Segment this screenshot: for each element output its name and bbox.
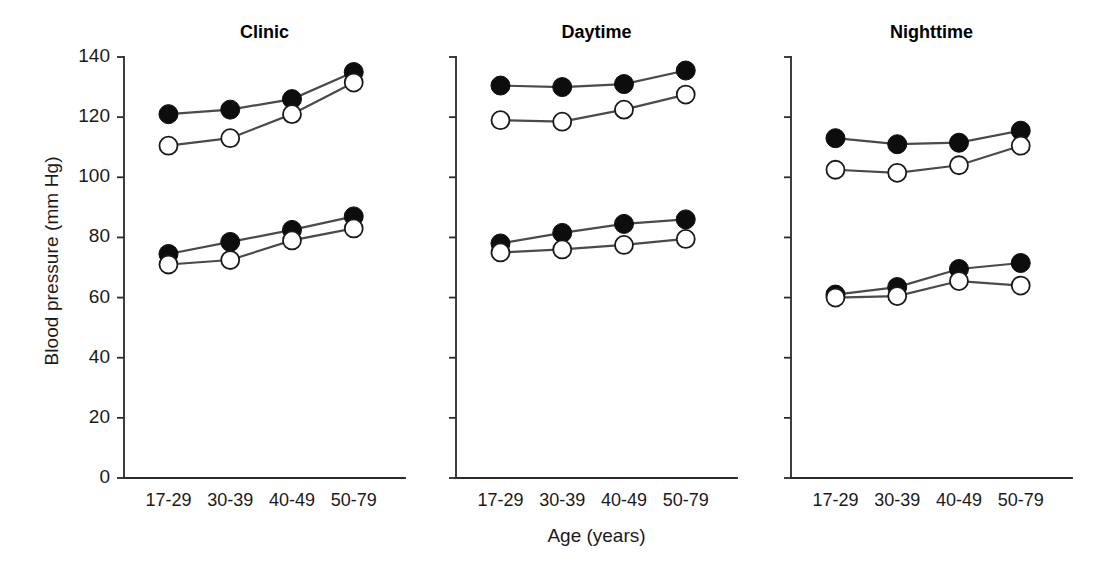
y-tick-label: 0 <box>62 466 110 488</box>
data-point-filled <box>949 133 968 152</box>
panel-title-daytime: Daytime <box>436 22 757 43</box>
panel-title-nighttime: Nighttime <box>771 22 1092 43</box>
y-tick-label: 120 <box>62 105 110 127</box>
series-line <box>500 239 685 253</box>
data-point-open <box>491 243 509 261</box>
data-point-open <box>491 111 509 129</box>
data-point-filled <box>1011 253 1030 272</box>
data-point-open <box>826 289 844 307</box>
series-line <box>835 146 1020 173</box>
panel-title-clinic: Clinic <box>104 22 425 43</box>
data-point-filled <box>676 210 695 229</box>
panel-nighttime <box>784 57 1072 478</box>
data-point-filled <box>553 78 572 97</box>
data-point-open <box>888 287 906 305</box>
series-line <box>168 83 353 146</box>
data-point-open <box>553 240 571 258</box>
y-tick-label: 60 <box>62 286 110 308</box>
data-point-filled <box>221 232 240 251</box>
data-point-open <box>826 161 844 179</box>
axis-spines <box>791 57 1072 478</box>
data-point-filled <box>676 61 695 80</box>
panel-clinic <box>117 57 405 478</box>
data-point-open <box>1012 277 1030 295</box>
series-line <box>835 131 1020 145</box>
y-tick-label: 40 <box>62 346 110 368</box>
data-point-open <box>221 129 239 147</box>
data-point-open <box>553 113 571 131</box>
data-point-open <box>1012 137 1030 155</box>
x-tick-label: 50-79 <box>984 490 1058 511</box>
series-line <box>500 95 685 122</box>
x-tick-label: 50-79 <box>317 490 391 511</box>
data-point-open <box>950 272 968 290</box>
data-point-open <box>159 137 177 155</box>
data-point-filled <box>888 135 907 154</box>
data-point-open <box>615 101 633 119</box>
data-point-open <box>677 230 695 248</box>
y-tick-label: 80 <box>62 225 110 247</box>
data-point-open <box>677 86 695 104</box>
data-point-open <box>283 231 301 249</box>
series-line <box>168 228 353 264</box>
series-line <box>168 72 353 114</box>
y-tick-label: 100 <box>62 165 110 187</box>
series-line <box>835 281 1020 298</box>
blood-pressure-figure: Blood pressure (mm Hg) Clinic02040608010… <box>0 0 1093 577</box>
data-point-open <box>950 156 968 174</box>
series-line <box>500 71 685 88</box>
data-point-open <box>283 105 301 123</box>
y-axis-title: Blood pressure (mm Hg) <box>41 91 63 431</box>
data-point-filled <box>614 214 633 233</box>
data-point-filled <box>614 75 633 94</box>
x-tick-label: 50-79 <box>649 490 723 511</box>
data-point-open <box>615 236 633 254</box>
y-tick-label: 140 <box>62 45 110 67</box>
data-point-open <box>221 251 239 269</box>
data-point-open <box>888 164 906 182</box>
data-point-filled <box>221 100 240 119</box>
panel-daytime <box>449 57 737 478</box>
data-point-filled <box>491 76 510 95</box>
data-point-filled <box>826 129 845 148</box>
series-line <box>500 219 685 243</box>
data-point-filled <box>159 105 178 124</box>
series-line <box>168 216 353 254</box>
data-point-open <box>345 219 363 237</box>
x-axis-title: Age (years) <box>477 525 717 547</box>
data-point-open <box>159 255 177 273</box>
series-line <box>835 263 1020 295</box>
y-tick-label: 20 <box>62 406 110 428</box>
data-point-open <box>345 74 363 92</box>
